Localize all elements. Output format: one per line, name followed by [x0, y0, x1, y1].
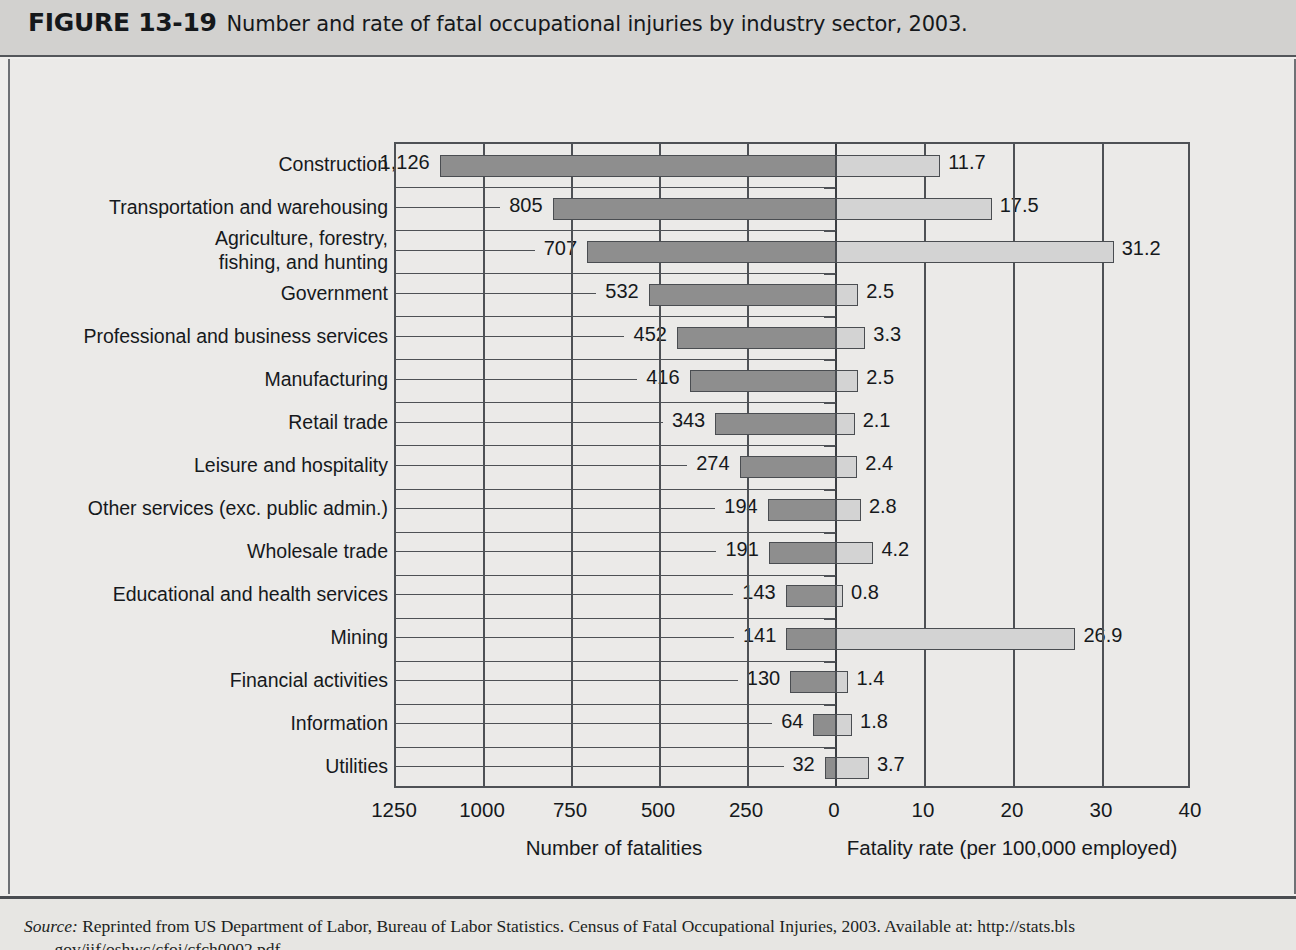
- figure-body: ConstructionTransportation and warehousi…: [8, 59, 1296, 894]
- bar-fatalities: [769, 542, 836, 564]
- category-label-line: Wholesale trade: [10, 539, 388, 563]
- category-label-11: Mining: [10, 625, 388, 649]
- bar-rate: [836, 370, 858, 392]
- bar-rate: [836, 155, 940, 177]
- axis-tick: [824, 316, 835, 318]
- category-label-10: Educational and health services: [10, 582, 388, 606]
- category-label-line: Information: [10, 711, 388, 735]
- bar-rate: [836, 456, 857, 478]
- bar-rate: [836, 241, 1114, 263]
- category-label-line: fishing, and hunting: [10, 250, 388, 274]
- category-label-7: Leisure and hospitality: [10, 453, 388, 477]
- row-separator: [396, 445, 836, 446]
- bar-fatalities: [740, 456, 836, 478]
- bar-fatalities: [440, 155, 836, 177]
- category-label-13: Information: [10, 711, 388, 735]
- xtick-rate-30: 30: [1061, 798, 1141, 822]
- source-body: Reprinted from US Department of Labor, B…: [78, 916, 1075, 936]
- category-label-4: Professional and business services: [10, 324, 388, 348]
- axis-tick: [824, 618, 835, 620]
- category-label-line: Construction: [10, 152, 388, 176]
- bar-rate: [836, 542, 873, 564]
- gridline-fatalities-750: [571, 144, 573, 786]
- xtick-fatalities-750: 750: [530, 798, 610, 822]
- bar-fatalities: [587, 241, 836, 263]
- bar-fatalities: [690, 370, 836, 392]
- category-label-line: Utilities: [10, 754, 388, 778]
- axis-tick: [824, 445, 835, 447]
- bidirectional-bar-chart: ConstructionTransportation and warehousi…: [10, 59, 1296, 894]
- xtick-fatalities-500: 500: [618, 798, 698, 822]
- bar-rate: [836, 714, 852, 736]
- category-label-line: Other services (exc. public admin.): [10, 496, 388, 520]
- row-separator: [396, 489, 836, 490]
- bar-rate: [836, 671, 848, 693]
- source-note-line2: .gov/iif/oshwc/cfoi/cfch0002.pdf: [50, 939, 280, 950]
- category-label-line: Government: [10, 281, 388, 305]
- xtick-rate-10: 10: [883, 798, 963, 822]
- bar-rate: [836, 628, 1075, 650]
- bar-fatalities: [715, 413, 836, 435]
- source-band: Source: Reprinted from US Department of …: [0, 896, 1296, 950]
- axis-tick: [824, 273, 835, 275]
- bar-fatalities: [649, 284, 836, 306]
- row-separator: [396, 532, 836, 533]
- axis-tick: [824, 489, 835, 491]
- category-label-5: Manufacturing: [10, 367, 388, 391]
- bar-rate: [836, 757, 869, 779]
- row-separator: [396, 704, 836, 705]
- category-label-8: Other services (exc. public admin.): [10, 496, 388, 520]
- row-separator: [396, 316, 836, 317]
- category-label-14: Utilities: [10, 754, 388, 778]
- xtick-rate-40: 40: [1150, 798, 1230, 822]
- axis-tick: [824, 187, 835, 189]
- bar-rate: [836, 585, 843, 607]
- category-label-line: Financial activities: [10, 668, 388, 692]
- gridline-fatalities-1000: [483, 144, 485, 786]
- category-label-9: Wholesale trade: [10, 539, 388, 563]
- axis-tick: [824, 359, 835, 361]
- bar-rate: [836, 198, 992, 220]
- row-separator: [396, 273, 836, 274]
- category-label-0: Construction: [10, 152, 388, 176]
- axis-tick: [824, 661, 835, 663]
- category-label-12: Financial activities: [10, 668, 388, 692]
- row-separator: [396, 359, 836, 360]
- figure-header-inner: FIGURE 13-19Number and rate of fatal occ…: [28, 8, 1276, 37]
- bar-fatalities: [790, 671, 836, 693]
- category-label-line: Retail trade: [10, 410, 388, 434]
- bar-fatalities: [786, 585, 836, 607]
- axis-tick: [824, 747, 835, 749]
- category-label-2: Agriculture, forestry,fishing, and hunti…: [10, 226, 388, 274]
- axis-tick: [824, 402, 835, 404]
- x-axis-title-rate: Fatality rate (per 100,000 employed): [814, 836, 1210, 860]
- bar-rate: [836, 284, 858, 306]
- xtick-fatalities-250: 250: [706, 798, 786, 822]
- bar-fatalities: [813, 714, 836, 736]
- figure-number: FIGURE 13-19: [28, 8, 217, 37]
- bar-fatalities: [553, 198, 836, 220]
- bar-rate: [836, 327, 865, 349]
- row-separator: [396, 402, 836, 403]
- row-separator: [396, 575, 836, 576]
- source-label: Source:: [24, 916, 78, 936]
- bar-fatalities: [768, 499, 836, 521]
- xtick-fatalities-1250: 1250: [354, 798, 434, 822]
- row-separator: [396, 187, 836, 188]
- bar-fatalities: [786, 628, 836, 650]
- category-label-line: Transportation and warehousing: [10, 195, 388, 219]
- figure-header-band: FIGURE 13-19Number and rate of fatal occ…: [0, 0, 1296, 57]
- axis-tick: [824, 532, 835, 534]
- category-label-line: Agriculture, forestry,: [10, 226, 388, 250]
- figure-caption: Number and rate of fatal occupational in…: [227, 12, 968, 36]
- source-note: Source: Reprinted from US Department of …: [24, 916, 1292, 937]
- bar-fatalities: [825, 757, 836, 779]
- plot-area: [394, 142, 1190, 788]
- category-label-line: Manufacturing: [10, 367, 388, 391]
- category-label-line: Leisure and hospitality: [10, 453, 388, 477]
- category-label-line: Educational and health services: [10, 582, 388, 606]
- category-label-line: Mining: [10, 625, 388, 649]
- category-label-line: Professional and business services: [10, 324, 388, 348]
- x-axis-title-fatalities: Number of fatalities: [394, 836, 834, 860]
- xtick-rate-20: 20: [972, 798, 1052, 822]
